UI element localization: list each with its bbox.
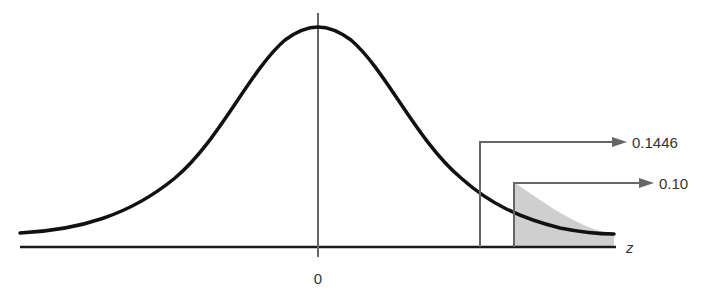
mean-tick-label: 0 [314,270,322,287]
shaded-tail-area [514,182,614,247]
arrowhead-0.1446 [612,137,627,147]
z-axis-label: z [625,239,634,256]
normal-distribution-diagram: 0.1446 0.10 0 z [0,0,719,305]
arrowhead-0.10 [639,178,654,188]
ordinate-value-label: 0.1446 [632,134,678,151]
tail-area-value-label: 0.10 [659,175,688,192]
